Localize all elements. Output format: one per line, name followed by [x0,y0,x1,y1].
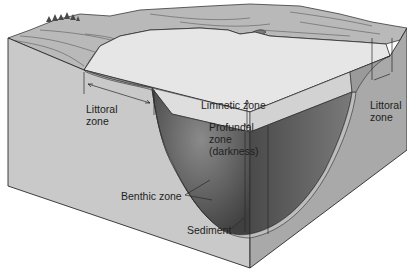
littoral-zone-left-label: Littoral zone [86,103,118,127]
benthic-zone-label: Benthic zone [121,190,182,202]
lake-zones-diagram: Littoral zone Limnetic zone Littoral zon… [0,0,407,270]
limnetic-zone-label: Limnetic zone [201,99,266,111]
profundal-zone-label: Profundal zone (darkness) [209,121,259,157]
littoral-zone-right-label: Littoral zone [370,99,402,123]
sediment-label: Sediment [187,224,231,236]
